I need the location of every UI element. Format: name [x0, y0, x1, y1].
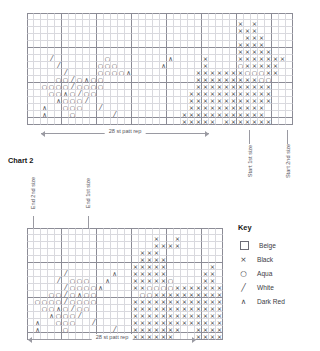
cell-beige[interactable] [153, 76, 160, 83]
cell-black[interactable]: × [216, 284, 223, 291]
cell-beige[interactable] [83, 20, 90, 27]
cell-black[interactable]: × [251, 20, 258, 27]
cell-black[interactable]: × [174, 235, 181, 242]
cell-beige[interactable] [153, 69, 160, 76]
cell-beige[interactable] [118, 83, 125, 90]
cell-beige[interactable] [167, 235, 174, 242]
cell-black[interactable]: × [132, 326, 139, 333]
cell-beige[interactable] [146, 83, 153, 90]
cell-aqua[interactable]: ○ [90, 298, 97, 305]
cell-beige[interactable] [125, 27, 132, 34]
cell-black[interactable]: × [195, 326, 202, 333]
cell-black[interactable]: × [244, 34, 251, 41]
cell-beige[interactable] [97, 90, 104, 97]
cell-beige[interactable] [104, 34, 111, 41]
cell-black[interactable]: × [209, 277, 216, 284]
cell-beige[interactable] [69, 242, 76, 249]
cell-beige[interactable] [223, 13, 230, 20]
cell-beige[interactable] [181, 256, 188, 263]
cell-black[interactable]: × [132, 277, 139, 284]
cell-beige[interactable] [48, 235, 55, 242]
cell-beige[interactable] [34, 48, 41, 55]
cell-beige[interactable] [76, 319, 83, 326]
cell-beige[interactable] [69, 326, 76, 333]
cell-black[interactable]: × [244, 97, 251, 104]
cell-aqua[interactable]: ○ [90, 83, 97, 90]
cell-beige[interactable] [104, 305, 111, 312]
cell-beige[interactable] [286, 20, 293, 27]
cell-black[interactable]: × [195, 69, 202, 76]
cell-beige[interactable] [174, 69, 181, 76]
cell-beige[interactable] [41, 97, 48, 104]
cell-black[interactable]: × [272, 55, 279, 62]
cell-black[interactable]: × [167, 242, 174, 249]
cell-aqua[interactable]: ○ [83, 298, 90, 305]
cell-black[interactable]: × [258, 83, 265, 90]
cell-beige[interactable] [48, 118, 55, 125]
cell-beige[interactable] [104, 83, 111, 90]
cell-beige[interactable] [104, 97, 111, 104]
cell-beige[interactable] [27, 228, 34, 235]
cell-aqua[interactable]: ○ [76, 277, 83, 284]
cell-black[interactable]: × [258, 90, 265, 97]
cell-white[interactable]: ╱ [62, 69, 69, 76]
cell-beige[interactable] [223, 20, 230, 27]
cell-beige[interactable] [76, 41, 83, 48]
cell-aqua[interactable]: ○ [69, 319, 76, 326]
cell-beige[interactable] [174, 111, 181, 118]
cell-beige[interactable] [188, 228, 195, 235]
cell-beige[interactable] [181, 228, 188, 235]
cell-beige[interactable] [34, 235, 41, 242]
cell-beige[interactable] [125, 83, 132, 90]
cell-beige[interactable] [41, 319, 48, 326]
cell-beige[interactable] [125, 242, 132, 249]
cell-beige[interactable] [62, 242, 69, 249]
cell-beige[interactable] [160, 97, 167, 104]
cell-beige[interactable] [55, 27, 62, 34]
cell-beige[interactable] [62, 55, 69, 62]
cell-black[interactable]: × [139, 305, 146, 312]
cell-beige[interactable] [195, 256, 202, 263]
cell-beige[interactable] [174, 27, 181, 34]
cell-black[interactable]: × [174, 305, 181, 312]
cell-black[interactable]: × [195, 104, 202, 111]
cell-beige[interactable] [76, 270, 83, 277]
cell-beige[interactable] [223, 48, 230, 55]
cell-beige[interactable] [188, 69, 195, 76]
cell-beige[interactable] [160, 228, 167, 235]
cell-black[interactable]: × [195, 111, 202, 118]
cell-beige[interactable] [153, 97, 160, 104]
cell-black[interactable]: × [216, 333, 223, 340]
cell-black[interactable]: × [216, 111, 223, 118]
cell-beige[interactable] [286, 55, 293, 62]
cell-beige[interactable] [181, 55, 188, 62]
cell-black[interactable]: × [132, 319, 139, 326]
cell-beige[interactable] [41, 27, 48, 34]
cell-beige[interactable] [97, 305, 104, 312]
cell-aqua[interactable]: ○ [55, 298, 62, 305]
cell-beige[interactable] [181, 235, 188, 242]
cell-beige[interactable] [146, 235, 153, 242]
cell-beige[interactable] [265, 13, 272, 20]
cell-beige[interactable] [139, 34, 146, 41]
cell-beige[interactable] [27, 27, 34, 34]
cell-white[interactable]: ╱ [76, 90, 83, 97]
cell-beige[interactable] [195, 249, 202, 256]
cell-beige[interactable] [125, 277, 132, 284]
cell-beige[interactable] [146, 111, 153, 118]
cell-beige[interactable] [181, 13, 188, 20]
cell-beige[interactable] [237, 34, 244, 41]
cell-beige[interactable] [27, 83, 34, 90]
cell-beige[interactable] [90, 111, 97, 118]
cell-beige[interactable] [279, 111, 286, 118]
cell-beige[interactable] [104, 27, 111, 34]
cell-beige[interactable] [62, 48, 69, 55]
cell-beige[interactable] [230, 20, 237, 27]
cell-beige[interactable] [34, 284, 41, 291]
cell-black[interactable]: × [258, 34, 265, 41]
cell-beige[interactable] [27, 13, 34, 20]
cell-beige[interactable] [132, 291, 139, 298]
cell-beige[interactable] [132, 242, 139, 249]
cell-beige[interactable] [118, 76, 125, 83]
cell-beige[interactable] [209, 228, 216, 235]
